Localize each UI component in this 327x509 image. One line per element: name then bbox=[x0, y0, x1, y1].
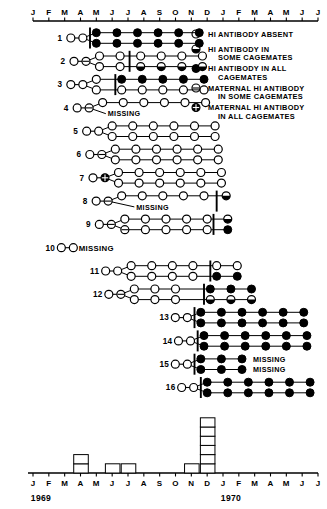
open-circle-icon bbox=[83, 127, 91, 135]
filled-circle-icon bbox=[265, 378, 273, 386]
symbol-filled bbox=[227, 285, 235, 293]
symbol-maternal-open bbox=[192, 84, 200, 92]
open-circle-icon bbox=[168, 272, 176, 280]
histogram-month-label: N bbox=[188, 479, 194, 488]
filled-circle-icon bbox=[195, 39, 203, 47]
symbol-open bbox=[200, 192, 208, 200]
open-circle-icon bbox=[179, 86, 187, 94]
symbol-open bbox=[173, 156, 181, 164]
symbol-open bbox=[162, 226, 170, 234]
symbol-open bbox=[153, 156, 161, 164]
open-circle-icon bbox=[121, 215, 129, 223]
symbol-open bbox=[198, 52, 206, 60]
open-circle-icon bbox=[130, 296, 138, 304]
open-circle-icon bbox=[183, 314, 191, 322]
open-circle-icon bbox=[132, 145, 140, 153]
symbol-open bbox=[115, 179, 123, 187]
symbol-open bbox=[138, 86, 146, 94]
histogram-month-label: J bbox=[110, 479, 115, 488]
symbol-filled bbox=[286, 378, 294, 386]
open-circle-icon bbox=[187, 337, 195, 345]
open-circle-icon bbox=[156, 169, 164, 177]
filled-circle-icon bbox=[227, 285, 235, 293]
symbol-filled bbox=[265, 389, 273, 397]
symbol-open bbox=[141, 215, 149, 223]
symbol-open bbox=[102, 267, 110, 275]
open-circle-icon bbox=[181, 99, 189, 107]
histogram-cell bbox=[121, 464, 136, 473]
open-circle-icon bbox=[73, 104, 81, 112]
open-circle-icon bbox=[96, 52, 104, 60]
symbol-filled bbox=[248, 285, 256, 293]
filled-circle-icon bbox=[306, 378, 314, 386]
row-number-label: 2 bbox=[61, 57, 66, 66]
symbol-open bbox=[197, 169, 205, 177]
filled-circle-icon bbox=[197, 366, 205, 374]
open-circle-icon bbox=[191, 133, 199, 141]
filled-circle-icon bbox=[241, 332, 249, 340]
open-circle-icon bbox=[115, 169, 123, 177]
filled-circle-icon bbox=[241, 342, 249, 350]
symbol-open bbox=[191, 133, 199, 141]
filled-circle-icon bbox=[238, 319, 246, 327]
filled-circle-icon bbox=[259, 319, 267, 327]
symbol-filled bbox=[197, 366, 205, 374]
symbol-open bbox=[176, 169, 184, 177]
symbol-filled bbox=[241, 332, 249, 340]
symbol-filled bbox=[221, 342, 229, 350]
symbol-half bbox=[224, 215, 232, 223]
histogram-month-label: A bbox=[77, 479, 83, 488]
open-circle-icon bbox=[183, 215, 191, 223]
symbol-open bbox=[203, 215, 211, 223]
symbol-open bbox=[151, 285, 159, 293]
symbol-open bbox=[160, 99, 168, 107]
symbol-filled bbox=[306, 378, 314, 386]
symbol-open bbox=[89, 174, 97, 182]
axis-month-label: F bbox=[46, 8, 51, 17]
symbol-filled bbox=[203, 389, 211, 397]
row-number-label: 3 bbox=[57, 80, 62, 89]
open-circle-icon bbox=[99, 99, 107, 107]
open-circle-icon bbox=[96, 63, 104, 71]
filled-circle-icon bbox=[203, 378, 211, 386]
open-circle-icon bbox=[118, 192, 126, 200]
symbol-filled bbox=[138, 75, 146, 83]
filled-circle-icon bbox=[248, 285, 256, 293]
histogram-month-label: M bbox=[93, 479, 100, 488]
symbol-open bbox=[119, 99, 127, 107]
legend-label: HI ANTIBODY ABSENT bbox=[208, 30, 293, 39]
symbol-filled bbox=[259, 308, 267, 316]
symbol-filled bbox=[224, 378, 232, 386]
open-circle-icon bbox=[115, 179, 123, 187]
axis-month-label: M bbox=[93, 8, 100, 17]
symbol-filled bbox=[233, 272, 241, 280]
symbol-filled bbox=[197, 355, 205, 363]
legend-label: CAGEMATES bbox=[218, 73, 267, 82]
open-circle-icon bbox=[183, 360, 191, 368]
axis-month-label: A bbox=[267, 8, 273, 17]
symbol-open bbox=[183, 314, 191, 322]
symbol-open bbox=[83, 127, 91, 135]
symbol-half bbox=[222, 192, 230, 200]
symbol-open bbox=[189, 272, 197, 280]
open-circle-icon bbox=[108, 133, 116, 141]
symbol-open bbox=[127, 262, 135, 270]
row-number-label: 13 bbox=[159, 313, 169, 322]
filled-circle-icon bbox=[197, 319, 205, 327]
histogram-month-label: M bbox=[61, 479, 68, 488]
open-circle-icon bbox=[140, 99, 148, 107]
filled-circle-icon bbox=[279, 308, 287, 316]
symbol-filled bbox=[303, 342, 311, 350]
symbol-maternal-open bbox=[98, 151, 106, 159]
histogram-cell bbox=[200, 464, 215, 473]
open-circle-icon bbox=[108, 122, 116, 130]
open-circle-icon bbox=[138, 86, 146, 94]
symbol-open bbox=[176, 179, 184, 187]
filled-circle-icon bbox=[262, 342, 270, 350]
open-circle-icon bbox=[175, 337, 183, 345]
legend-label: IN SOME CAGEMATES bbox=[218, 92, 303, 101]
symbol-filled bbox=[238, 308, 246, 316]
axis-month-label: F bbox=[236, 8, 241, 17]
symbol-open bbox=[162, 215, 170, 223]
symbol-open bbox=[156, 169, 164, 177]
